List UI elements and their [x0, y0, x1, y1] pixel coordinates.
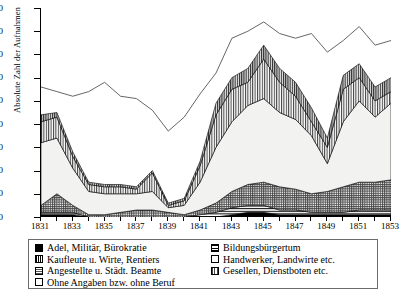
legend-item-label: Bildungsbürgertum — [223, 242, 301, 253]
plot-area — [40, 8, 390, 217]
legend-item[interactable]: Bildungsbürgertum — [211, 242, 335, 254]
y-tick-label: 90 — [0, 4, 3, 13]
y-tick-label: 0 — [0, 213, 3, 222]
legend-item[interactable]: Adel, Militär, Bürokratie — [35, 242, 175, 254]
x-tick-label: 1853 — [373, 221, 406, 231]
legend-swatch-icon — [35, 267, 43, 275]
legend-swatch-icon — [211, 255, 219, 263]
legend-swatch-icon — [211, 267, 219, 275]
x-tick-label: 1839 — [150, 221, 184, 231]
y-tick-label: 10 — [0, 189, 3, 198]
x-tick-label: 1851 — [341, 221, 375, 231]
legend-item[interactable]: Gesellen, Dienstboten etc. — [211, 265, 335, 277]
x-tick-label: 1847 — [278, 221, 312, 231]
legend-item[interactable]: Ohne Angaben bzw. ohne Beruf — [35, 277, 175, 289]
y-tick-label: 50 — [0, 96, 3, 105]
x-tick-label: 1841 — [182, 221, 216, 231]
y-tick-label: 20 — [0, 166, 3, 175]
legend-item[interactable]: Handwerker, Landwirte etc. — [211, 254, 335, 266]
legend-item-label: Handwerker, Landwirte etc. — [223, 254, 335, 265]
x-tick-label: 1833 — [55, 221, 89, 231]
legend-item-label: Ohne Angaben bzw. ohne Beruf — [47, 277, 175, 288]
legend-swatch-icon — [35, 244, 43, 252]
legend-item[interactable]: Kaufleute u. Wirte, Rentiers — [35, 254, 175, 266]
y-tick-label: 60 — [0, 73, 3, 82]
legend-item-label: Angestellte u. Städt. Beamte — [47, 265, 161, 276]
y-tick-label: 30 — [0, 143, 3, 152]
x-tick-label: 1831 — [23, 221, 57, 231]
legend-item-label: Kaufleute u. Wirte, Rentiers — [47, 254, 159, 265]
x-tick-label: 1845 — [246, 221, 280, 231]
legend-column-right: BildungsbürgertumHandwerker, Landwirte e… — [211, 242, 335, 277]
y-tick-label: 80 — [0, 27, 3, 36]
legend-swatch-icon — [35, 278, 43, 286]
x-tick-label: 1849 — [309, 221, 343, 231]
legend: Adel, Militär, BürokratieKaufleute u. Wi… — [28, 239, 378, 289]
legend-swatch-icon — [35, 255, 43, 263]
stacked-area-svg — [41, 8, 391, 217]
y-tick-label: 40 — [0, 120, 3, 129]
legend-item-label: Gesellen, Dienstboten etc. — [223, 265, 328, 276]
chart-figure: Absolute Zahl der Aufnahmen 010203040506… — [0, 0, 406, 296]
legend-item-label: Adel, Militär, Bürokratie — [47, 242, 147, 253]
y-tick-label: 70 — [0, 50, 3, 59]
y-axis-title: Absolute Zahl der Aufnahmen — [12, 0, 22, 145]
x-tick-label: 1835 — [87, 221, 121, 231]
x-tick-label: 1837 — [118, 221, 152, 231]
x-tick-label: 1843 — [214, 221, 248, 231]
legend-swatch-icon — [211, 244, 219, 252]
legend-item[interactable]: Angestellte u. Städt. Beamte — [35, 265, 175, 277]
legend-column-left: Adel, Militär, BürokratieKaufleute u. Wi… — [35, 242, 175, 288]
